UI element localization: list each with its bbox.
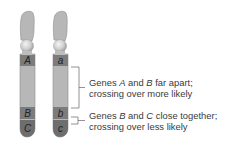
gene-label-B: B — [24, 108, 31, 119]
bracket-ab — [71, 67, 85, 108]
annotation-bc-line1: Genes B and C close together; — [89, 110, 217, 121]
chromosome-right: a b c — [53, 11, 68, 137]
annotation-bc-line2: crossing over less likely — [89, 121, 217, 132]
centromere — [21, 40, 34, 53]
gene-label-a: a — [58, 55, 64, 66]
annotation-ab-line2: crossing over more likely — [89, 88, 193, 99]
annotation-ab-line1: Genes A and B far apart; — [89, 77, 193, 88]
gene-label-c: c — [58, 123, 63, 134]
upper-arm — [20, 11, 34, 41]
centromere — [54, 40, 67, 53]
chromosome-left: A B C — [20, 11, 35, 137]
annotation-ab: Genes A and B far apart; crossing over m… — [89, 77, 193, 99]
annotation-bc: Genes B and C close together; crossing o… — [89, 110, 217, 132]
gene-label-b: b — [58, 108, 64, 119]
bracket-bc — [71, 117, 85, 124]
upper-arm — [53, 11, 67, 41]
gene-label-A: A — [23, 55, 31, 66]
gene-label-C: C — [24, 123, 32, 134]
